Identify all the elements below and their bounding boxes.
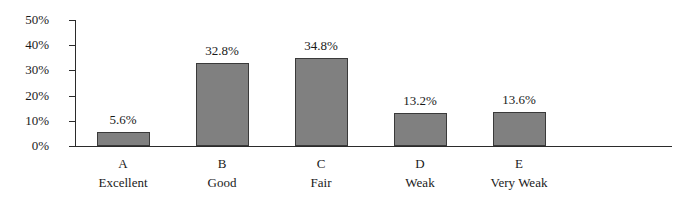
y-axis-tick-label: 50% [3, 11, 49, 29]
y-axis-tick-label: 40% [3, 36, 49, 54]
bar-value-label: 32.8% [182, 43, 262, 59]
y-axis-tick-mark [69, 96, 76, 97]
y-axis-line [75, 20, 76, 146]
category-letter: E [470, 154, 568, 173]
category-letter: D [371, 154, 469, 173]
y-axis-tick-mark [69, 70, 76, 71]
category-letter: C [272, 154, 370, 173]
x-axis-category-label: CFair [272, 154, 370, 192]
bar-chart: 0%10%20%30%40%50% 5.6%AExcellent32.8%BGo… [0, 0, 700, 205]
y-axis-tick-mark [69, 20, 76, 21]
bar[interactable] [394, 113, 447, 146]
bar[interactable] [295, 58, 348, 146]
y-axis-tick-label: 10% [3, 112, 49, 130]
x-axis-category-label: DWeak [371, 154, 469, 192]
x-axis-category-label: EVery Weak [470, 154, 568, 192]
category-name: Very Weak [470, 173, 568, 192]
x-axis-category-label: BGood [173, 154, 271, 192]
x-axis-category-label: AExcellent [74, 154, 172, 192]
bar[interactable] [196, 63, 249, 146]
bar-value-label: 13.2% [380, 93, 460, 109]
bar-value-label: 34.8% [281, 38, 361, 54]
bar-value-label: 13.6% [479, 92, 559, 108]
y-axis-tick-label: 30% [3, 61, 49, 79]
category-letter: A [74, 154, 172, 173]
x-axis-line [75, 146, 672, 147]
category-letter: B [173, 154, 271, 173]
category-name: Excellent [74, 173, 172, 192]
category-name: Good [173, 173, 271, 192]
bar-value-label: 5.6% [83, 112, 163, 128]
y-axis-tick-mark [69, 45, 76, 46]
y-axis-tick-label: 0% [3, 137, 49, 155]
category-name: Fair [272, 173, 370, 192]
y-axis-tick-label: 20% [3, 87, 49, 105]
category-name: Weak [371, 173, 469, 192]
bar[interactable] [493, 112, 546, 146]
y-axis-tick-mark [69, 121, 76, 122]
bar[interactable] [97, 132, 150, 146]
